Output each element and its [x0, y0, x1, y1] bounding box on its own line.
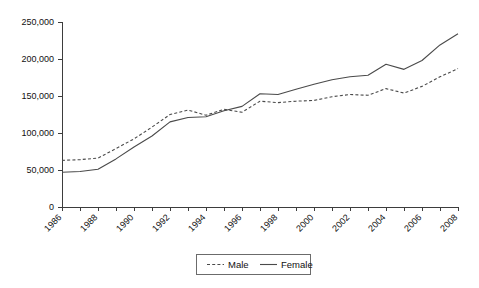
- line-chart: 050,000100,000150,000200,000250,000 1986…: [0, 0, 479, 288]
- plot-area: 050,000100,000150,000200,000250,000 1986…: [21, 17, 459, 233]
- x-tick-label: 2008: [438, 212, 459, 233]
- series-line-female: [62, 34, 458, 172]
- x-tick-label: 1986: [42, 212, 63, 233]
- x-axis-tick-labels: 1986198819901992199419961998200020022004…: [42, 212, 459, 233]
- y-axis-tick-labels: 050,000100,000150,000200,000250,000: [21, 17, 54, 212]
- y-tick-label: 250,000: [21, 17, 54, 27]
- y-tick-label: 0: [49, 202, 54, 212]
- x-tick-label: 1996: [222, 212, 243, 233]
- x-tick-label: 2004: [366, 212, 387, 233]
- y-tick-label: 100,000: [21, 128, 54, 138]
- chart-svg: 050,000100,000150,000200,000250,000 1986…: [0, 0, 479, 288]
- x-tick-label: 1990: [114, 212, 135, 233]
- x-tick-label: 2002: [330, 212, 351, 233]
- x-tick-label: 1994: [186, 212, 207, 233]
- legend-label-male: Male: [228, 259, 249, 270]
- x-axis-ticks: [62, 207, 458, 211]
- legend-label-female: Female: [281, 259, 313, 270]
- series-line-male: [62, 69, 458, 161]
- y-tick-label: 50,000: [26, 165, 54, 175]
- x-tick-label: 1998: [258, 212, 279, 233]
- x-tick-label: 1988: [78, 212, 99, 233]
- x-tick-label: 1992: [150, 212, 171, 233]
- y-tick-label: 200,000: [21, 54, 54, 64]
- y-tick-label: 150,000: [21, 91, 54, 101]
- x-tick-label: 2006: [402, 212, 423, 233]
- y-axis-ticks: [58, 22, 62, 207]
- x-tick-label: 2000: [294, 212, 315, 233]
- legend: Male Female: [197, 255, 313, 275]
